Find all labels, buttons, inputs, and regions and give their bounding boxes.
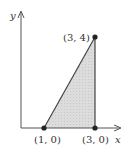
y-axis-label: y — [9, 10, 16, 21]
vertex-label-1-0: (1, 0) — [34, 134, 61, 145]
x-axis-label: x — [115, 134, 121, 145]
vertex-label-3-0: (3, 0) — [82, 134, 109, 145]
vertex-point-1-0 — [41, 125, 46, 130]
vertex-point-3-4 — [92, 34, 97, 39]
diagram-canvas: y x (3, 4) (1, 0) (3, 0) — [0, 0, 131, 149]
vertex-label-3-4: (3, 4) — [63, 32, 90, 43]
vertex-point-3-0 — [92, 125, 97, 130]
